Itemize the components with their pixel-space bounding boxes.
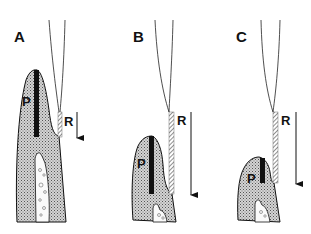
p-label: P [22,94,31,109]
p-label: P [137,156,146,171]
r-strip [58,112,62,137]
p-bar [149,136,154,194]
p-bar [260,158,265,183]
r-strip [273,112,278,183]
fiber-line [169,20,173,112]
fiber-line [261,20,273,112]
fiber-line [49,20,59,112]
panel-b: B P R [132,20,191,222]
panel-label: C [236,28,247,45]
diagram-canvas: A P R B P R [0,0,311,234]
panel-label: A [14,28,25,45]
r-label: R [64,114,74,129]
r-strip [169,112,174,194]
r-label: R [281,113,291,128]
panel-label: B [133,28,144,45]
r-label: R [177,113,187,128]
fiber-line [155,20,169,112]
panel-a: A P R [14,20,77,222]
fiber-line [273,20,280,112]
p-label: P [247,171,256,186]
fiber-line [60,20,65,112]
panel-c: C P R [236,20,296,222]
p-bar [34,70,39,137]
